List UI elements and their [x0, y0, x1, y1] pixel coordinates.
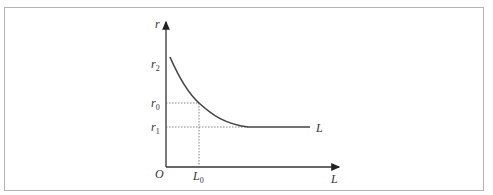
- x-axis-label: L: [330, 172, 338, 186]
- L0-label: L0: [192, 169, 204, 185]
- r2-label: r2: [151, 57, 160, 73]
- r-vs-L-diagram: r r2 r0 r1 L O L0 L: [0, 0, 493, 195]
- y-axis-label: r: [155, 17, 160, 31]
- r-curve: [170, 57, 310, 127]
- origin-label: O: [155, 167, 164, 181]
- r0-label: r0: [151, 96, 160, 112]
- r1-label: r1: [151, 120, 160, 136]
- curve-label: L: [315, 121, 323, 135]
